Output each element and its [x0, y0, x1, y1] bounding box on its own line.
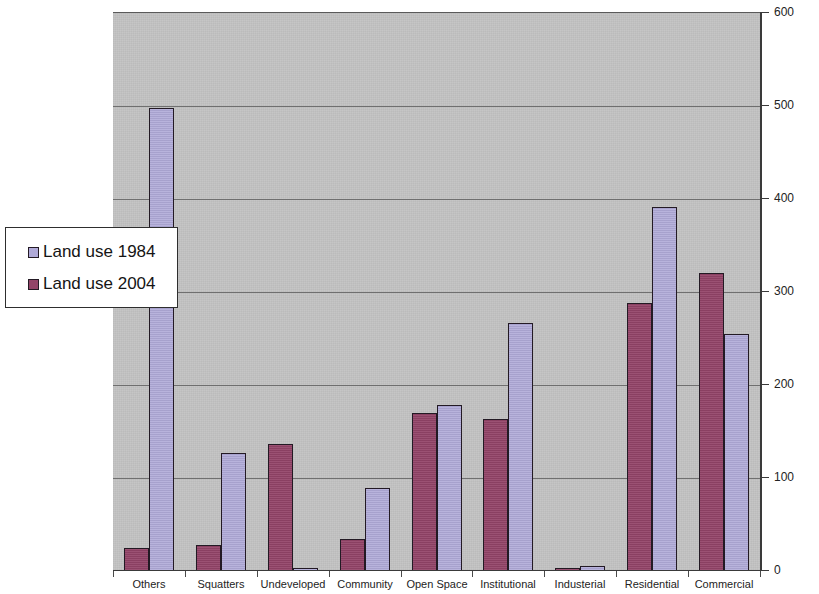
bar-chart: 0100200300400500600 OthersSquattersUndev…	[0, 0, 819, 594]
y-tick-mark-200	[762, 384, 769, 385]
bar-commercial-2004	[699, 273, 724, 571]
y-tick-label-500: 500	[774, 99, 794, 111]
legend-item-land-use-1984: Land use 1984	[28, 236, 177, 268]
y-tick-label-600: 600	[774, 6, 794, 18]
x-tick-mark-3	[329, 571, 330, 577]
x-axis-label-squatters: Squatters	[185, 578, 257, 591]
bar-open-space-2004	[412, 413, 437, 571]
x-axis-label-residential: Residential	[616, 578, 688, 591]
x-axis-label-undeveloped: Undeveloped	[257, 578, 329, 591]
y-tick-label-100: 100	[774, 471, 794, 483]
bar-community-1984	[365, 488, 390, 571]
x-tick-mark-8	[688, 571, 689, 577]
bar-others-2004	[124, 548, 149, 571]
y-tick-mark-0	[762, 570, 769, 571]
x-axis-label-industerial: Industerial	[544, 578, 616, 591]
bar-others-1984	[149, 108, 174, 571]
bar-undeveloped-2004	[268, 444, 293, 571]
y-tick-mark-300	[762, 291, 769, 292]
x-axis-label-open-space: Open Space	[401, 578, 473, 591]
legend-item-land-use-2004: Land use 2004	[28, 268, 177, 300]
x-tick-mark-1	[185, 571, 186, 577]
legend-swatch-icon-2004	[28, 279, 39, 290]
y-tick-label-300: 300	[774, 285, 794, 297]
bar-community-2004	[340, 539, 365, 571]
y-tick-mark-500	[762, 105, 769, 106]
x-tick-mark-6	[544, 571, 545, 577]
legend-label-2004: Land use 2004	[43, 275, 156, 293]
legend-label-1984: Land use 1984	[43, 243, 156, 261]
y-tick-label-0: 0	[774, 564, 781, 576]
x-tick-mark-5	[472, 571, 473, 577]
bar-squatters-1984	[221, 453, 246, 571]
plot-area	[113, 12, 760, 570]
bar-squatters-2004	[196, 545, 221, 571]
y-tick-mark-100	[762, 477, 769, 478]
gridline-400	[113, 199, 760, 200]
x-axis-label-others: Others	[113, 578, 185, 591]
x-axis-line	[113, 570, 762, 571]
bar-open-space-1984	[437, 405, 462, 571]
bar-commercial-1984	[724, 334, 749, 571]
chart-legend: Land use 1984 Land use 2004	[5, 227, 178, 308]
bar-residential-2004	[627, 303, 652, 571]
gridline-500	[113, 106, 760, 107]
y-tick-label-200: 200	[774, 378, 794, 390]
x-tick-mark-4	[401, 571, 402, 577]
x-tick-mark-end	[760, 571, 761, 577]
y-tick-mark-400	[762, 198, 769, 199]
x-axis-label-community: Community	[329, 578, 401, 591]
bar-institutional-2004	[483, 419, 508, 571]
x-axis-label-institutional: Institutional	[472, 578, 544, 591]
x-axis-label-commercial: Commercial	[688, 578, 760, 591]
bar-institutional-1984	[508, 323, 533, 571]
x-tick-mark-2	[257, 571, 258, 577]
y-tick-label-400: 400	[774, 192, 794, 204]
x-tick-mark-0	[113, 571, 114, 577]
x-tick-mark-7	[616, 571, 617, 577]
bar-residential-1984	[652, 207, 677, 571]
legend-swatch-icon-1984	[28, 247, 39, 258]
y-tick-mark-600	[762, 12, 769, 13]
